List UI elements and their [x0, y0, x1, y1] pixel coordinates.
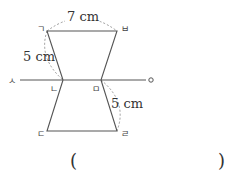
vertex-label-b: ㅂ: [121, 24, 129, 34]
endpoint-o-marker: [149, 78, 153, 82]
upper-trapezoid: [47, 31, 117, 80]
top-length-label: 7 cm: [67, 9, 99, 24]
vertex-label-g: ㄱ: [37, 24, 45, 34]
upper-left-side-label: 5 cm: [23, 49, 55, 64]
vertex-label-n: ㄴ: [50, 84, 58, 94]
answer-blank[interactable]: [82, 152, 214, 174]
vertex-label-s: ㅅ: [8, 76, 16, 86]
lower-right-side-label: 5 cm: [111, 96, 143, 111]
vertex-label-r: ㄹ: [121, 129, 129, 139]
answer-open-paren: (: [70, 150, 77, 171]
vertex-label-d: ㄷ: [37, 129, 45, 139]
answer-close-paren: ): [218, 150, 225, 171]
vertex-label-m: ㅁ: [92, 84, 100, 94]
